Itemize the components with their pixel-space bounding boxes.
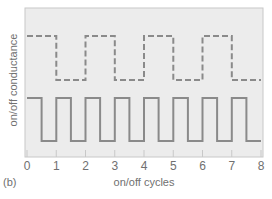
x-tick-label: 0 — [24, 159, 31, 173]
conductance-chart: 012345678 on/off conductance on/off cycl… — [0, 0, 272, 199]
y-axis-label: on/off conductance — [7, 34, 19, 127]
x-tick-label: 7 — [228, 159, 235, 173]
x-axis-label: on/off cycles — [114, 176, 175, 188]
x-tick-label: 6 — [199, 159, 206, 173]
x-tick-labels: 012345678 — [24, 159, 265, 173]
x-tick-label: 3 — [111, 159, 118, 173]
x-tick-label: 4 — [141, 159, 148, 173]
x-tick-label: 5 — [170, 159, 177, 173]
x-tick-label: 1 — [53, 159, 60, 173]
x-tick-label: 8 — [258, 159, 265, 173]
panel-label: (b) — [3, 176, 16, 188]
x-tick-label: 2 — [82, 159, 89, 173]
